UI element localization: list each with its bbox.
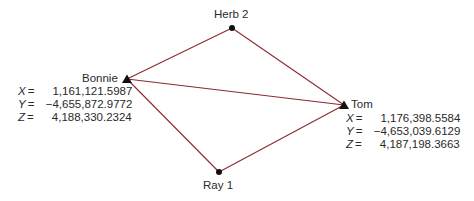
y-axis-label: Y: [346, 125, 354, 138]
tom-z-value: 4,187,198.3663: [365, 138, 460, 151]
bonnie-x-value: 1,161,121.5987: [37, 85, 132, 98]
station-dot-herb2: [229, 25, 235, 31]
x-axis-label: X: [346, 112, 354, 125]
station-label-tom: Tom: [351, 98, 373, 111]
station-label-herb2: Herb 2: [214, 8, 249, 21]
edge-bonnie-ray1: [127, 79, 219, 172]
z-axis-label: Z: [18, 111, 25, 124]
equals-sign: =: [28, 98, 35, 111]
tom-x-row: X= 1,176,398.5584: [346, 112, 460, 125]
equals-sign: =: [27, 111, 34, 124]
tom-z-row: Z= 4,187,198.3663: [346, 138, 460, 151]
station-label-ray1: Ray 1: [203, 179, 233, 192]
edge-herb2-bonnie: [127, 28, 232, 79]
bonnie-x-row: X= 1,161,121.5987: [18, 85, 132, 98]
equals-sign: =: [28, 85, 35, 98]
tom-x-value: 1,176,398.5584: [365, 112, 460, 125]
bonnie-coordinates: X= 1,161,121.5987 Y= −4,655,872.9772 Z= …: [18, 85, 132, 124]
bonnie-y-value: −4,655,872.9772: [37, 98, 132, 111]
bonnie-z-value: 4,188,330.2324: [37, 111, 132, 124]
tom-y-value: −4,653,039.6129: [365, 125, 460, 138]
tom-coordinates: X= 1,176,398.5584 Y= −4,653,039.6129 Z= …: [346, 112, 460, 151]
bonnie-y-row: Y= −4,655,872.9772: [18, 98, 132, 111]
tom-y-row: Y= −4,653,039.6129: [346, 125, 460, 138]
bonnie-z-row: Z= 4,188,330.2324: [18, 111, 132, 124]
y-axis-label: Y: [18, 98, 26, 111]
equals-sign: =: [355, 138, 362, 151]
station-triangle-bonnie: [122, 75, 132, 84]
equals-sign: =: [356, 112, 363, 125]
x-axis-label: X: [18, 85, 26, 98]
edge-tom-ray1: [219, 105, 344, 172]
station-dot-ray1: [216, 169, 222, 175]
z-axis-label: Z: [346, 138, 353, 151]
station-label-bonnie: Bonnie: [82, 72, 118, 85]
equals-sign: =: [356, 125, 363, 138]
